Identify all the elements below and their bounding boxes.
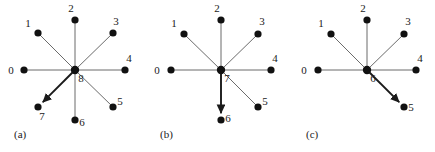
graph-node-label-1: 1 bbox=[25, 17, 31, 29]
graph-node-label-4: 4 bbox=[126, 52, 132, 64]
graph-node-3[interactable] bbox=[109, 29, 116, 36]
graph-panel-c: 0123456(c) bbox=[301, 2, 423, 141]
graph-node-1[interactable] bbox=[180, 30, 187, 37]
graph-edge-8-to-3 bbox=[75, 33, 113, 70]
panel-caption-c: (c) bbox=[306, 128, 319, 141]
graph-node-label-3: 3 bbox=[259, 15, 265, 27]
graph-node-label-0: 0 bbox=[8, 64, 14, 76]
graph-edge-6-to-1 bbox=[331, 34, 367, 70]
graph-node-3[interactable] bbox=[400, 30, 407, 37]
graph-node-4[interactable] bbox=[121, 66, 128, 73]
graph-node-1[interactable] bbox=[327, 30, 334, 37]
graph-center-label-7: 7 bbox=[224, 72, 230, 84]
graph-edge-7-to-3 bbox=[221, 34, 258, 70]
graph-edge-8-to-7 bbox=[43, 70, 75, 102]
graph-node-3[interactable] bbox=[254, 30, 261, 37]
graph-center-label-6: 6 bbox=[370, 72, 376, 84]
graph-node-label-0: 0 bbox=[301, 64, 307, 76]
graph-node-1[interactable] bbox=[34, 29, 41, 36]
star-graph-figure: 012345678(a)01234567(b)0123456(c) bbox=[0, 0, 435, 152]
graph-node-label-5: 5 bbox=[262, 95, 268, 107]
graph-node-5[interactable] bbox=[254, 103, 261, 110]
graph-node-4[interactable] bbox=[267, 66, 274, 73]
graph-node-label-2: 2 bbox=[360, 2, 366, 14]
graph-node-5[interactable] bbox=[109, 103, 116, 110]
graph-node-label-0: 0 bbox=[154, 64, 160, 76]
graph-node-4[interactable] bbox=[412, 66, 419, 73]
graph-node-label-1: 1 bbox=[318, 17, 324, 29]
graph-node-0[interactable] bbox=[314, 66, 321, 73]
graph-panel-b: 01234567(b) bbox=[154, 2, 278, 141]
graph-node-label-7: 7 bbox=[39, 110, 45, 122]
panel-caption-a: (a) bbox=[14, 128, 27, 141]
graph-edge-6-to-3 bbox=[367, 34, 404, 70]
graph-node-0[interactable] bbox=[20, 66, 27, 73]
graph-node-5[interactable] bbox=[400, 103, 407, 110]
graph-panel-a: 012345678(a) bbox=[8, 2, 132, 141]
graph-canvas: 012345678(a)01234567(b)0123456(c) bbox=[0, 0, 435, 152]
graph-edge-7-to-1 bbox=[184, 34, 221, 70]
graph-node-2[interactable] bbox=[363, 16, 370, 23]
graph-node-label-2: 2 bbox=[68, 2, 74, 14]
graph-node-label-1: 1 bbox=[171, 17, 177, 29]
graph-node-label-4: 4 bbox=[272, 52, 278, 64]
graph-render-root: 012345678(a)01234567(b)0123456(c) bbox=[8, 2, 423, 141]
graph-node-label-3: 3 bbox=[113, 15, 119, 27]
graph-node-label-4: 4 bbox=[417, 52, 423, 64]
graph-node-6[interactable] bbox=[217, 116, 224, 123]
graph-node-2[interactable] bbox=[217, 16, 224, 23]
graph-node-label-6: 6 bbox=[79, 116, 85, 128]
graph-node-label-5: 5 bbox=[117, 95, 123, 107]
graph-edge-8-to-1 bbox=[38, 33, 75, 70]
graph-node-0[interactable] bbox=[167, 66, 174, 73]
graph-node-label-3: 3 bbox=[405, 15, 411, 27]
graph-node-label-6: 6 bbox=[225, 112, 231, 124]
graph-node-2[interactable] bbox=[71, 16, 78, 23]
panel-caption-b: (b) bbox=[160, 128, 173, 141]
graph-node-label-2: 2 bbox=[214, 2, 220, 14]
graph-node-6[interactable] bbox=[71, 116, 78, 123]
graph-center-label-8: 8 bbox=[78, 72, 84, 84]
graph-node-label-5: 5 bbox=[408, 101, 414, 113]
